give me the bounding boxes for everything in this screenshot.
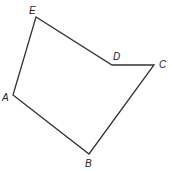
pentagon-diagram: A B C D E [0,0,171,171]
vertex-label-d: D [113,51,120,62]
vertex-label-a: A [1,92,9,103]
vertex-label-c: C [159,59,167,70]
vertex-label-e: E [29,5,36,16]
pentagon-outline [13,17,154,154]
vertex-label-b: B [85,158,92,169]
